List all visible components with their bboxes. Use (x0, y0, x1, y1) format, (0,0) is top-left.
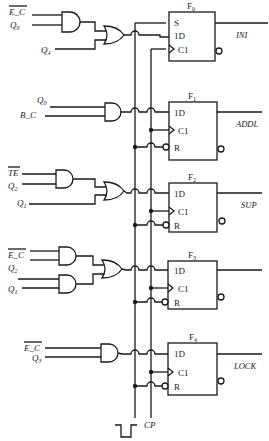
f0-logic: E_C Q0 Q4 (8, 6, 169, 56)
pin-1d: 1D (174, 108, 186, 118)
svg-text:Q2: Q2 (8, 181, 18, 192)
inverted-output-bubble-icon (218, 294, 224, 300)
inverted-output-bubble-icon (216, 48, 222, 54)
svg-text:Q2: Q2 (8, 263, 18, 274)
pin-r: R (174, 298, 180, 308)
pin-1d: 1D (174, 266, 186, 276)
svg-text:F3: F3 (188, 250, 196, 261)
svg-text:E_C: E_C (8, 7, 26, 17)
flip-flop-f3: F3 1D C1 R (133, 250, 262, 309)
svg-text:Q1: Q1 (17, 198, 27, 209)
pin-c1: C1 (178, 126, 189, 136)
inverted-output-bubble-icon (218, 378, 224, 384)
pin-r: R (174, 382, 180, 392)
reset-bubble-icon (163, 144, 169, 150)
pin-c1: C1 (178, 207, 189, 217)
pin-s: S (174, 18, 179, 28)
inverted-output-bubble-icon (218, 146, 224, 152)
output-label-sup: SUP (241, 200, 257, 210)
svg-text:E_C: E_C (7, 250, 25, 260)
flip-flop-f4: F4 1D C1 R LOCK (133, 332, 262, 395)
pin-r: R (174, 143, 180, 153)
or-gate-icon (104, 182, 124, 200)
or-gate-icon (102, 260, 122, 278)
reset-bubble-icon (162, 383, 168, 389)
f4-logic: E_C Q3 (23, 342, 168, 364)
and-gate-icon (105, 103, 121, 121)
output-label-ini: INI (235, 30, 249, 40)
f3-logic: E_C Q2 Q1 (7, 247, 168, 295)
f2-logic: TE Q2 Q1 (8, 167, 169, 209)
output-label-lock: LOCK (233, 361, 258, 371)
svg-text:F4: F4 (189, 332, 197, 343)
output-label-addl: ADDL (235, 119, 258, 129)
svg-text:TE: TE (8, 168, 19, 178)
cp-label: CP (144, 420, 156, 430)
circuit-diagram: F0 S 1D C1 INI E_C Q0 Q4 F1 1D C1 R (0, 0, 269, 441)
pin-1d: 1D (174, 189, 186, 199)
svg-text:B_C: B_C (20, 110, 37, 120)
pin-1d: 1D (174, 31, 186, 41)
and-gate-icon (62, 12, 80, 32)
pin-c1: C1 (178, 368, 189, 378)
reset-bubble-icon (163, 222, 169, 228)
flip-flop-f1: F1 1D C1 R ADDL (133, 91, 262, 160)
f1-logic: Q0 B_C (20, 95, 169, 121)
pin-1d: 1D (174, 349, 186, 359)
reset-bubble-icon (162, 299, 168, 305)
svg-text:Q1: Q1 (8, 284, 18, 295)
svg-text:Q3: Q3 (32, 353, 42, 364)
flip-flop-f2: F2 1D C1 R SUP (133, 172, 262, 232)
inverted-output-bubble-icon (219, 218, 225, 224)
pin-c1: C1 (178, 45, 189, 55)
svg-text:Q0: Q0 (10, 20, 20, 31)
svg-text:E_C: E_C (23, 343, 41, 353)
svg-text:F1: F1 (188, 91, 196, 102)
svg-text:Q0: Q0 (37, 95, 47, 106)
clock-bus (151, 49, 166, 418)
and-gate-icon (59, 275, 76, 293)
svg-text:Q4: Q4 (41, 45, 51, 56)
negative-pulse-icon (115, 425, 137, 437)
pin-r: R (174, 221, 180, 231)
svg-text:F0: F0 (187, 1, 195, 12)
svg-text:F2: F2 (188, 172, 196, 183)
and-gate-icon (101, 344, 118, 362)
and-gate-icon (56, 170, 73, 188)
wire-crossover (124, 31, 169, 37)
or-gate-icon (104, 26, 124, 44)
and-gate-icon (59, 247, 76, 265)
flip-flop-f0: F0 S 1D C1 INI (169, 1, 268, 61)
pin-c1: C1 (178, 284, 189, 294)
